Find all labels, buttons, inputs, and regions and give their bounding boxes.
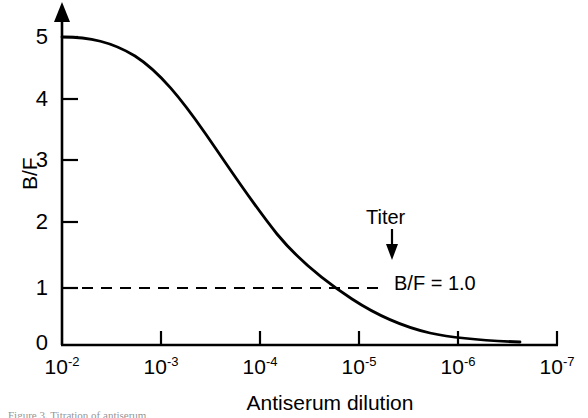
x-tick-exp-5: -6 xyxy=(464,354,476,369)
y-axis-title: B/F xyxy=(19,157,40,190)
y-tick-label-5: 5 xyxy=(24,26,48,48)
x-tick-label-2: 10-3 xyxy=(126,356,196,377)
x-tick-base-4: 10 xyxy=(342,355,365,378)
y-tick-label-1: 1 xyxy=(24,277,48,299)
titer-label: Titer xyxy=(366,207,405,227)
y-axis xyxy=(54,2,70,345)
x-tick-label-3: 10-4 xyxy=(225,356,295,377)
x-tick-label-5: 10-6 xyxy=(423,356,493,377)
y-tick-label-4: 4 xyxy=(24,88,48,110)
x-axis-title: Antiserum dilution xyxy=(180,392,480,413)
bf-equals-label: B/F = 1.0 xyxy=(394,273,476,293)
x-tick-exp-2: -3 xyxy=(167,354,179,369)
x-tick-label-1: 10-2 xyxy=(27,356,97,377)
titration-curve xyxy=(62,37,520,342)
x-tick-base-1: 10 xyxy=(45,355,68,378)
x-tick-base-2: 10 xyxy=(144,355,167,378)
x-tick-exp-3: -4 xyxy=(266,354,278,369)
x-tick-exp-1: -2 xyxy=(68,354,80,369)
y-tick-label-2: 2 xyxy=(24,211,48,233)
x-tick-label-4: 10-5 xyxy=(324,356,394,377)
x-tick-exp-4: -5 xyxy=(365,354,377,369)
x-tick-base-3: 10 xyxy=(243,355,266,378)
x-tick-label-6: 10-7 xyxy=(522,356,588,377)
figure-container: 5 4 3 2 1 0 10-2 10-3 10-4 10-5 10-6 10-… xyxy=(0,0,588,418)
figure-caption: Figure 3. Titration of antiserum. xyxy=(8,409,149,418)
x-tick-base-5: 10 xyxy=(441,355,464,378)
y-tick-label-0: 0 xyxy=(24,332,48,354)
y-axis-arrowhead xyxy=(54,2,70,22)
x-axis-ticks xyxy=(161,331,557,345)
y-axis-ticks xyxy=(62,37,78,288)
x-tick-base-6: 10 xyxy=(540,355,563,378)
titer-arrow xyxy=(386,229,398,260)
x-tick-exp-6: -7 xyxy=(563,354,575,369)
